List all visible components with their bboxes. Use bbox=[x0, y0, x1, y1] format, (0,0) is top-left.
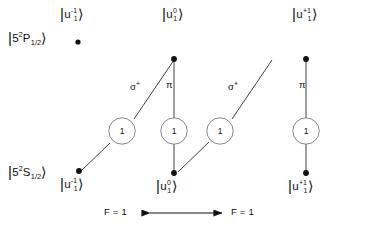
sigma-sup-left: + bbox=[136, 80, 140, 87]
cg-coefficient-4: 1 bbox=[296, 127, 316, 136]
ket-lower-minus: |u-11⟩ bbox=[60, 176, 83, 191]
polarization-label-pi-right: π bbox=[299, 80, 306, 90]
pi-glyph-left: π bbox=[166, 79, 173, 90]
ket-upper-minus-sup: -1 bbox=[71, 7, 77, 14]
polarization-label-sigma-plus-right: σ+ bbox=[228, 82, 238, 92]
ket-upper-plus: |u+11⟩ bbox=[292, 6, 317, 21]
cg-coefficient-2: 1 bbox=[164, 127, 184, 136]
cg-coefficient-1: 1 bbox=[112, 127, 132, 136]
ket-lower-zero: |u01⟩ bbox=[156, 178, 177, 193]
ket-lower-plus-sub: 1 bbox=[303, 187, 307, 194]
transition-line-sigma-plus-left bbox=[80, 60, 174, 172]
excited-state-term-label: |52P1/2⟩ bbox=[8, 30, 47, 45]
state-dot-lower-minus bbox=[76, 168, 82, 174]
ket-upper-plus-sub: 1 bbox=[307, 15, 311, 22]
f-label-right: F = 1 bbox=[231, 207, 254, 217]
polarization-label-sigma-plus-left: σ+ bbox=[130, 82, 140, 92]
polarization-label-pi-left: π bbox=[166, 80, 173, 90]
ket-upper-zero-sub: 1 bbox=[173, 15, 177, 22]
sigma-sup-right: + bbox=[234, 80, 238, 87]
ground-state-term-label: |52S1/2⟩ bbox=[8, 164, 47, 179]
ket-lower-zero-sub: 1 bbox=[167, 187, 171, 194]
transition-line-sigma-plus-right bbox=[178, 60, 272, 172]
cg-coefficient-3: 1 bbox=[210, 127, 230, 136]
state-dot-upper-minus bbox=[75, 39, 80, 44]
transition-lines-layer bbox=[0, 0, 375, 230]
pi-glyph-right: π bbox=[299, 79, 306, 90]
ket-lower-zero-sup: 0 bbox=[167, 179, 171, 186]
ket-lower-plus: |u+11⟩ bbox=[288, 178, 313, 193]
ket-upper-zero-sup: 0 bbox=[173, 7, 177, 14]
ket-upper-zero: |u01⟩ bbox=[162, 6, 183, 21]
ket-upper-minus: |u-11⟩ bbox=[60, 6, 83, 21]
f-label-left: F = 1 bbox=[104, 207, 127, 217]
ket-lower-minus-sup: -1 bbox=[71, 177, 77, 184]
ket-upper-plus-sup: +1 bbox=[303, 7, 311, 14]
state-dot-lower-zero bbox=[171, 170, 177, 176]
transition-line-pi-left bbox=[161, 60, 187, 172]
transition-line-pi-right bbox=[293, 60, 319, 172]
state-dot-upper-plus bbox=[303, 56, 309, 62]
ket-lower-plus-sup: +1 bbox=[299, 179, 307, 186]
state-dot-upper-zero bbox=[171, 56, 177, 62]
state-dot-lower-plus bbox=[303, 170, 309, 176]
diagram-canvas: |52P1/2⟩ |u-11⟩ |u01⟩ |u+11⟩ |52S1/2⟩ |u… bbox=[0, 0, 375, 230]
